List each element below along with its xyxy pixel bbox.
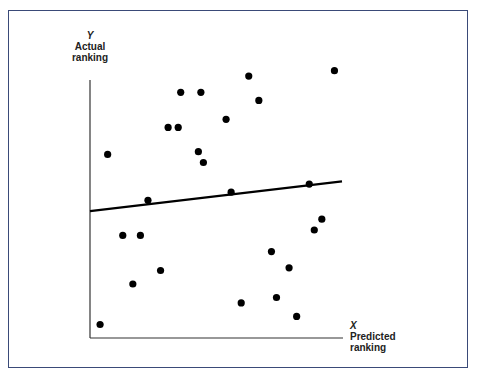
x-symbol: X bbox=[350, 320, 357, 331]
regression-line bbox=[90, 181, 342, 211]
data-point bbox=[268, 248, 275, 255]
data-point bbox=[165, 124, 172, 131]
data-point bbox=[273, 294, 280, 301]
data-point bbox=[311, 226, 318, 233]
data-point bbox=[175, 124, 182, 131]
data-point bbox=[255, 97, 262, 104]
data-point bbox=[222, 116, 229, 123]
y-symbol: Y bbox=[87, 30, 94, 41]
data-point bbox=[197, 89, 204, 96]
data-point bbox=[195, 148, 202, 155]
x-label-line2: ranking bbox=[350, 342, 396, 353]
x-axis-label: X Predicted ranking bbox=[350, 320, 396, 353]
data-point bbox=[200, 159, 207, 166]
data-point bbox=[285, 264, 292, 271]
data-point bbox=[318, 216, 325, 223]
data-point bbox=[144, 197, 151, 204]
data-point bbox=[177, 89, 184, 96]
data-point bbox=[119, 232, 126, 239]
y-label-line2: ranking bbox=[52, 52, 128, 63]
data-point bbox=[137, 232, 144, 239]
data-point bbox=[96, 321, 103, 328]
data-point bbox=[293, 313, 300, 320]
data-points bbox=[96, 67, 338, 328]
y-axis-label: Y Actual ranking bbox=[52, 30, 128, 63]
data-point bbox=[238, 299, 245, 306]
data-point bbox=[104, 151, 111, 158]
x-label-line1: Predicted bbox=[350, 331, 396, 342]
data-point bbox=[331, 67, 338, 74]
data-point bbox=[157, 267, 164, 274]
data-point bbox=[245, 73, 252, 80]
data-point bbox=[129, 280, 136, 287]
y-label-line1: Actual bbox=[52, 41, 128, 52]
